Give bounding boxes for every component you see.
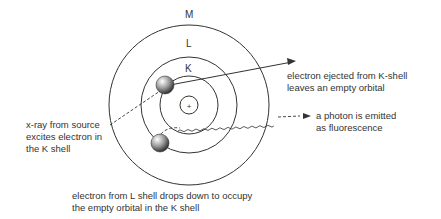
xray-path (110, 91, 160, 125)
photon-arrowhead-icon (303, 113, 311, 119)
drop-line-2: the empty orbital in the K shell (72, 202, 252, 214)
electron-ejected (156, 76, 174, 94)
nucleus-plus: + (187, 102, 192, 111)
arrowhead-icon (287, 58, 296, 65)
photon-line-1: a photon is emitted (316, 110, 396, 122)
drop-line-1: electron from L shell drops down to occu… (72, 190, 252, 202)
xray-line-3: the K shell (26, 143, 102, 155)
photon-line-2: as fluorescence (316, 122, 396, 134)
ejected-line-1: electron ejected from K-shell (287, 70, 407, 82)
shell-label-l: L (186, 38, 192, 49)
photon-wave (178, 125, 274, 132)
photon-label: a photon is emitted as fluorescence (316, 110, 396, 134)
ejected-label: electron ejected from K-shell leaves an … (287, 70, 407, 94)
drop-label: electron from L shell drops down to occu… (72, 190, 252, 214)
shell-label-k: K (185, 63, 192, 74)
electron-dropping (151, 134, 169, 152)
shell-label-m: M (185, 9, 193, 20)
xray-line-1: x-ray from source (26, 119, 102, 131)
photon-dash (278, 116, 300, 117)
xray-label: x-ray from source excites electron in th… (26, 119, 102, 155)
xray-line-2: excites electron in (26, 131, 102, 143)
ejected-line-2: leaves an empty orbital (287, 82, 407, 94)
